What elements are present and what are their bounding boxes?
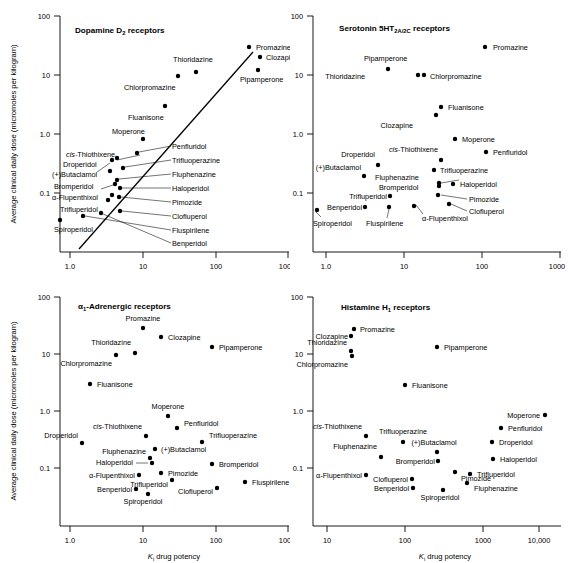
point-penfluridol <box>175 426 179 430</box>
panel-b-ytick-10: 10 <box>295 71 303 80</box>
point-haloperidol <box>118 186 122 190</box>
label-chlorpromazine: Chlorpromazine <box>124 83 176 92</box>
point-pipamperone <box>386 67 390 71</box>
point-alpha-flupenthixol <box>412 204 416 208</box>
label-bromperidol: Bromperidol <box>396 457 436 466</box>
point-penfluridol <box>499 426 503 430</box>
label-clozapine: Clozapine <box>381 121 413 130</box>
label-penfluridol: Penfluridol <box>508 424 543 433</box>
label-alpha-flupenthixol: α-Flupenthixol <box>89 471 135 480</box>
panel-b-ytick-1: 1.0 <box>293 130 303 139</box>
panel-c-labels: Promazine Clozapine Pipamperone Thiorida… <box>44 314 289 506</box>
point-benperidol <box>411 486 415 490</box>
label-promazine: Promazine <box>360 325 395 334</box>
point-promazine <box>141 326 145 330</box>
point-clozapine <box>258 55 262 59</box>
point-alpha-flupenthixol <box>364 473 368 477</box>
point-bromperidol <box>210 462 214 466</box>
label-bromperidol: Bromperidol <box>379 183 419 192</box>
label-pimozide: Pimozide <box>469 195 499 204</box>
point-clofluperol <box>118 209 122 213</box>
label-fluspirilene: Fluspirilene <box>252 478 289 487</box>
label-penfluridol: Penfluridol <box>172 142 207 151</box>
point-chlorpromazine <box>114 353 118 357</box>
panel-d-xtick-10000: 10,000 <box>528 536 551 545</box>
label-fluphenazine: Fluphenazine <box>333 442 377 451</box>
point-clozapine <box>434 113 438 117</box>
label-alpha-flupenthixol: α-Flupenthixol <box>52 193 98 202</box>
point-promazine <box>483 45 487 49</box>
label-haloperidol: Haloperidol <box>96 458 133 467</box>
label-cis-thiothixene: cis-Thiothixene <box>93 422 142 431</box>
point-spiroperidol <box>58 218 62 222</box>
label-butaclamol: (+)Butaclamol <box>161 445 207 454</box>
point-cis-thiothixene <box>364 434 368 438</box>
point-clofluperol <box>447 202 451 206</box>
label-droperidol: Droperidol <box>341 150 375 159</box>
point-pimozide <box>436 193 440 197</box>
label-benperidol: Benperidol <box>374 484 409 493</box>
point-trifluoperazine <box>121 166 125 170</box>
panel-d-ytick-10: 10 <box>295 350 303 359</box>
label-clofluperol: Clofluperol <box>172 212 207 221</box>
panel-serotonin-5ht2a2c: 100 10 1.0 0.1 1.0 10 100 1000 Serotonin… <box>285 0 569 285</box>
label-chlorpromazine: Chlorpromazine <box>296 360 348 369</box>
point-spiroperidol <box>146 492 150 496</box>
panel-d-xtick-100: 100 <box>399 536 411 545</box>
label-trifluperidol: Trifluperidol <box>349 192 387 201</box>
label-thioridazine: Thioridazine <box>173 55 213 64</box>
point-haloperidol <box>491 457 495 461</box>
point-trifluperidol <box>106 198 110 202</box>
panel-b-ytick-0.1: 0.1 <box>293 189 303 198</box>
point-benperidol <box>99 211 103 215</box>
point-pimozide <box>453 470 457 474</box>
panel-b-ytick-100: 100 <box>291 12 303 21</box>
point-butaclamol <box>362 174 366 178</box>
label-clofluperol: Clofluperol <box>178 487 213 496</box>
label-fluphenazine: Fluphenazine <box>102 447 146 456</box>
point-bromperidol <box>436 459 440 463</box>
point-fluspirilene <box>243 480 247 484</box>
point-moperone <box>166 414 170 418</box>
panel-c-ytick-1: 1.0 <box>40 407 50 416</box>
point-bromperidol <box>113 182 117 186</box>
panel-c-ytick-10: 10 <box>42 350 50 359</box>
panel-d-xtick-10: 10 <box>323 536 331 545</box>
label-chlorpromazine: Chlorpromazine <box>60 359 112 368</box>
label-trifluperidol: Trifluperidol <box>60 205 98 214</box>
point-cis-thiothixene <box>144 434 148 438</box>
label-droperidol: Droperidol <box>499 438 533 447</box>
panel-a-xtick-10: 10 <box>139 262 147 271</box>
panel-c-title: α1-Adrenergic receptors <box>78 302 171 312</box>
panel-c-x-axis-label: Ki drug potency <box>148 552 201 562</box>
point-promazine <box>247 45 251 49</box>
label-clofluperol: Clofluperol <box>373 475 408 484</box>
point-spiroperidol <box>441 488 445 492</box>
label-cis-thiothixene: cis-Thiothixene <box>66 150 115 159</box>
label-benperidol: Benperidol <box>172 239 207 248</box>
label-clofluperol: Clofluperol <box>469 207 504 216</box>
panel-c-axes <box>60 297 289 526</box>
label-penfluridol: Penfluridol <box>493 148 528 157</box>
panel-a-title: Dopamine D2 receptors <box>75 26 165 36</box>
point-spiroperidol <box>315 208 319 212</box>
point-clofluperol <box>215 486 219 490</box>
point-alpha-flupenthixol <box>110 193 114 197</box>
panel-dopamine-d2: 100 10 1.0 0.1 1.0 10 100 1000 Dopamine … <box>0 0 290 285</box>
label-pipamperone: Pipamperone <box>240 75 283 84</box>
point-clozapine <box>349 334 353 338</box>
point-fluphenazine <box>115 178 119 182</box>
point-penfluridol <box>484 150 488 154</box>
point-promazine <box>352 327 356 331</box>
panel-a-ytick-0.1: 0.1 <box>40 189 50 198</box>
label-spiroperidol: Spiroperidol <box>124 497 163 506</box>
point-trifluoperazine <box>401 440 405 444</box>
point-thioridazine <box>194 70 198 74</box>
point-fluanisone <box>163 104 167 108</box>
point-chlorpromazine <box>350 354 354 358</box>
panel-b-labels: Promazine Pipamperone Thioridazine Chlor… <box>313 43 528 228</box>
point-fluspirilene <box>387 205 391 209</box>
label-haloperidol: Haloperidol <box>172 184 209 193</box>
point-droperidol <box>376 163 380 167</box>
point-pimozide <box>117 195 121 199</box>
